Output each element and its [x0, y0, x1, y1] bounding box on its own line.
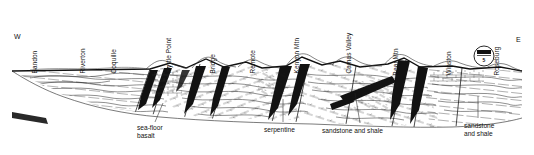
- place-label-coquille: Coquille: [111, 49, 117, 73]
- unit-label-line: basalt: [137, 132, 163, 140]
- place-label-remote: Remote: [250, 50, 256, 73]
- leader-sea-floor-basalt: [155, 103, 163, 122]
- geologic-cross-section-figure: 5 Bandon Riverton Coquille Myrtle Point …: [0, 0, 534, 155]
- unit-label-line: sea-floor: [137, 124, 163, 132]
- compass-west-label: W: [14, 33, 21, 40]
- place-label-bridge: Bridge: [210, 54, 216, 73]
- place-label-camas-valley: Camas Valley: [346, 33, 352, 74]
- place-label-bandon: Bandon: [32, 50, 38, 73]
- place-label-riverton: Riverton: [80, 48, 86, 73]
- place-label-bear-mtn: Bear Mtn: [393, 48, 399, 75]
- unit-label-line: serpentine: [264, 126, 295, 134]
- compass-east-label: E: [516, 36, 521, 43]
- unit-label-serpentine: serpentine: [264, 126, 295, 134]
- unit-label-sea-floor-basalt: sea-floor basalt: [137, 124, 163, 141]
- unit-label-line: sandstone: [464, 122, 494, 130]
- unit-label-line: sandstone and shale: [322, 127, 383, 135]
- unit-label-line: and shale: [464, 130, 494, 138]
- place-label-kenyon-mtn: Kenyon Mtn: [294, 38, 300, 74]
- unit-label-sandstone-and-shale-center: sandstone and shale: [322, 127, 383, 135]
- svg-text:5: 5: [483, 57, 486, 63]
- place-label-winston: Winston: [446, 51, 452, 75]
- place-label-roseburg: Roseburg: [494, 46, 500, 75]
- unit-label-sandstone-and-shale-right: sandstone and shale: [464, 122, 494, 139]
- place-label-myrtle-point: Myrtle Point: [166, 38, 172, 74]
- interstate-shield-icon: 5: [474, 46, 494, 66]
